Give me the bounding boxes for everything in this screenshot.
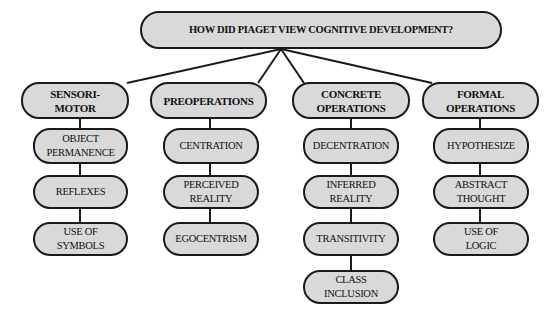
- stage-sensorimotor: SENSORI- MOTOR: [21, 82, 129, 119]
- concept-decentration: DECENTRATION: [303, 128, 399, 164]
- concept-reflexes: REFLEXES: [33, 175, 128, 209]
- concept-egocentrism: EGOCENTRISM: [163, 222, 259, 256]
- concept-hypothesize: HYPOTHESIZE: [433, 128, 529, 164]
- title-node: HOW DID PIAGET VIEW COGNITIVE DEVELOPMEN…: [140, 11, 502, 49]
- concept-transitivity: TRANSITIVITY: [303, 222, 399, 256]
- stage-formal-operations: FORMAL OPERATIONS: [422, 82, 539, 119]
- stage-concrete-operations: CONCRETE OPERATIONS: [292, 82, 410, 119]
- concept-use-of-symbols: USE OF SYMBOLS: [33, 222, 128, 256]
- piaget-concept-map: HOW DID PIAGET VIEW COGNITIVE DEVELOPMEN…: [0, 0, 559, 323]
- concept-class-inclusion: CLASS INCLUSION: [303, 270, 399, 304]
- stage-preoperations: PREOPERATIONS: [150, 82, 267, 119]
- concept-use-of-logic: USE OF LOGIC: [433, 222, 529, 256]
- concept-abstract-thought: ABSTRACT THOUGHT: [433, 175, 529, 209]
- concept-perceived-reality: PERCEIVED REALITY: [163, 175, 259, 209]
- concept-inferred-reality: INFERRED REALITY: [303, 175, 399, 209]
- concept-object-permanence: OBJECT PERMANENCE: [33, 128, 128, 164]
- concept-centration: CENTRATION: [163, 128, 259, 164]
